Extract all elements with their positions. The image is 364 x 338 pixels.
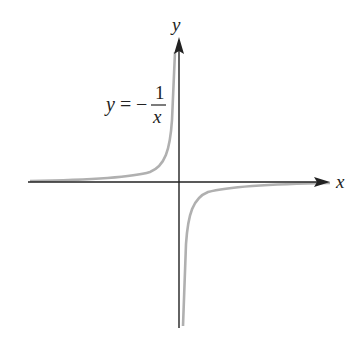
equation-sign: − bbox=[136, 93, 147, 115]
curve-branch-right bbox=[183, 183, 330, 326]
y-axis-label: y bbox=[170, 14, 181, 35]
equation-lhs: y bbox=[104, 93, 115, 116]
equation-equals: = bbox=[120, 93, 131, 115]
graph-canvas: x y y = − 1 x bbox=[0, 0, 364, 338]
equation-denominator: x bbox=[152, 106, 162, 127]
x-axis-label: x bbox=[335, 171, 345, 192]
equation-numerator: 1 bbox=[155, 82, 165, 103]
equation-label: y = − 1 x bbox=[104, 82, 166, 127]
